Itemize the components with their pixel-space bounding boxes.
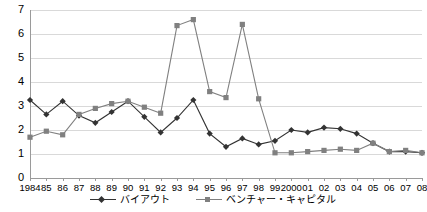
legend-label-buyout: バイアウト — [120, 194, 170, 205]
data-point — [403, 148, 408, 153]
legend-item-buyout[interactable]: バイアウト — [90, 194, 170, 205]
data-point — [256, 141, 262, 147]
data-point — [305, 149, 310, 154]
data-point — [207, 89, 212, 94]
data-point — [337, 126, 343, 132]
data-point — [321, 148, 326, 153]
data-point — [92, 120, 98, 126]
data-point — [305, 129, 311, 135]
data-point — [289, 150, 294, 155]
data-point — [93, 106, 98, 111]
data-point — [240, 22, 245, 27]
legend-label-venture-capital: ベンチャー・キャピタル — [226, 194, 336, 205]
data-point — [387, 149, 392, 154]
data-point — [272, 150, 277, 155]
data-point — [158, 111, 163, 116]
data-point — [354, 131, 360, 137]
data-point — [60, 132, 65, 137]
data-point — [354, 148, 359, 153]
data-point — [288, 127, 294, 133]
data-point — [27, 135, 32, 140]
data-point — [419, 150, 424, 155]
data-point — [239, 135, 245, 141]
data-point — [142, 105, 147, 110]
data-point — [223, 95, 228, 100]
data-point — [338, 147, 343, 152]
data-point — [109, 109, 115, 115]
data-point — [44, 129, 49, 134]
legend-item-venture-capital[interactable]: ベンチャー・キャピタル — [196, 194, 336, 205]
data-point — [272, 138, 278, 144]
data-point — [109, 101, 114, 106]
data-point — [370, 141, 375, 146]
legend-marker-square-icon — [196, 195, 222, 205]
data-point — [191, 17, 196, 22]
data-point — [256, 96, 261, 101]
data-point — [321, 125, 327, 131]
legend-marker-diamond-icon — [90, 195, 116, 205]
data-point — [125, 99, 130, 104]
series-line — [30, 20, 422, 153]
data-point — [174, 23, 179, 28]
series-venture-capital — [27, 17, 424, 155]
chart-legend: バイアウト ベンチャー・キャピタル — [0, 194, 426, 205]
data-point — [76, 112, 81, 117]
